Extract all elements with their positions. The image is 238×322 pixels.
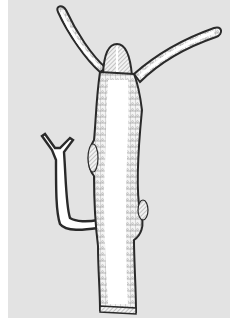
gonad-left xyxy=(88,144,98,172)
gonad-right xyxy=(138,200,148,220)
body-column xyxy=(89,72,143,312)
tentacle-left xyxy=(57,6,106,72)
hypostome xyxy=(103,44,132,76)
tentacle-right xyxy=(134,27,221,82)
hydra-illustration xyxy=(0,0,238,322)
basal-disc xyxy=(100,306,136,314)
